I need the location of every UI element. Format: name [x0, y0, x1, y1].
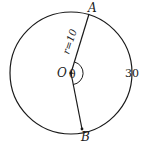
label-theta: θ — [69, 68, 76, 81]
circle-diagram: A B O θ r=10 30 — [0, 0, 144, 148]
label-a: A — [87, 1, 97, 15]
label-arc-length: 30 — [125, 67, 139, 80]
label-radius: r=10 — [60, 27, 79, 56]
label-b: B — [80, 130, 90, 144]
radius-ob — [71, 73, 82, 129]
label-center: O — [57, 66, 67, 80]
